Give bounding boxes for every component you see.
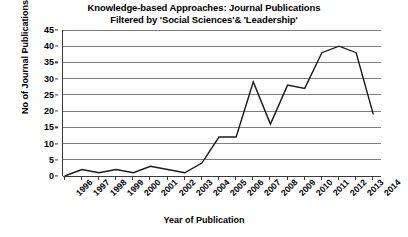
- x-axis-tick-label: 2012: [349, 178, 369, 198]
- y-axis-tick: [55, 78, 58, 79]
- x-axis-tick-label: 2014: [383, 178, 403, 198]
- x-axis-tick-label: 2008: [280, 178, 300, 198]
- y-axis-tick: [55, 143, 58, 144]
- y-axis-tick: [55, 46, 58, 47]
- x-axis-tick-label: 2001: [160, 178, 180, 198]
- data-series-line: [63, 30, 381, 176]
- y-axis-tick: [55, 159, 58, 160]
- y-axis-tick-labels: 051015202530354045: [0, 30, 58, 176]
- x-axis-tick-label: 2011: [331, 178, 351, 198]
- y-axis-tick: [55, 111, 58, 112]
- x-axis-tick-label: 1998: [109, 178, 129, 198]
- x-axis-tick-label: 2010: [314, 178, 334, 198]
- chart-title-block: Knowledge-based Approaches: Journal Publ…: [0, 2, 408, 25]
- y-axis-tick-label: 10: [44, 139, 54, 148]
- x-axis-tick-label: 2005: [229, 178, 249, 198]
- x-axis-tick-labels: 1996199719981999200020012002200320042005…: [0, 178, 408, 218]
- y-axis-tick-label: 20: [44, 107, 54, 116]
- x-axis-tick-label: 1997: [91, 178, 111, 198]
- x-axis-tick-label: 2002: [177, 178, 197, 198]
- x-axis-tick-label: 2009: [297, 178, 317, 198]
- y-axis-tick: [55, 94, 58, 95]
- x-axis-tick-label: 2013: [366, 178, 386, 198]
- x-axis-tick-label: 1996: [74, 178, 94, 198]
- y-axis-tick-label: 15: [44, 123, 54, 132]
- chart-subtitle: Filtered by 'Social Sciences'& 'Leadersh…: [0, 14, 408, 26]
- x-axis-tick-label: 2004: [211, 178, 231, 198]
- y-axis-tick: [55, 62, 58, 63]
- y-axis-tick-label: 25: [44, 90, 54, 99]
- y-axis-tick-label: 30: [44, 74, 54, 83]
- x-axis-tick-label: 1999: [126, 178, 146, 198]
- chart-title: Knowledge-based Approaches: Journal Publ…: [0, 2, 408, 14]
- plot-area: [62, 30, 381, 176]
- y-axis-tick-label: 45: [44, 26, 54, 35]
- y-axis-tick-label: 5: [49, 155, 54, 164]
- x-axis-tick-label: 2006: [246, 178, 266, 198]
- x-axis-tick-label: 2003: [194, 178, 214, 198]
- y-axis-tick: [55, 175, 58, 176]
- y-axis-tick-label: 40: [44, 42, 54, 51]
- chart-container: Knowledge-based Approaches: Journal Publ…: [0, 0, 408, 237]
- y-axis-tick: [55, 127, 58, 128]
- x-axis-title: Year of Publication: [0, 215, 408, 225]
- y-axis-tick-label: 35: [44, 58, 54, 67]
- y-axis-tick: [55, 29, 58, 30]
